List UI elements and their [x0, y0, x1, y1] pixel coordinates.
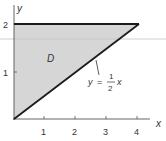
eq-sign: = — [97, 77, 102, 87]
eq-numerator: 1 — [109, 72, 114, 81]
y-tick-label-2: 2 — [3, 20, 8, 30]
x-tick-label-3: 3 — [103, 127, 108, 137]
x-axis-label: x — [155, 118, 162, 129]
eq-lhs: y — [87, 77, 93, 87]
x-tick-label-2: 2 — [72, 127, 77, 137]
x-tick-label-4: 4 — [134, 127, 139, 137]
region-label: D — [47, 53, 54, 64]
eq-var: x — [116, 77, 122, 87]
x-tick-label-1: 1 — [41, 127, 46, 137]
label-pointer — [96, 60, 99, 75]
region-diagram: y x 2 1 1 2 3 4 D y = 1 2 x — [0, 0, 166, 141]
eq-denominator: 2 — [108, 84, 113, 93]
y-axis-label: y — [16, 3, 23, 14]
y-tick-label-1: 1 — [3, 68, 8, 78]
